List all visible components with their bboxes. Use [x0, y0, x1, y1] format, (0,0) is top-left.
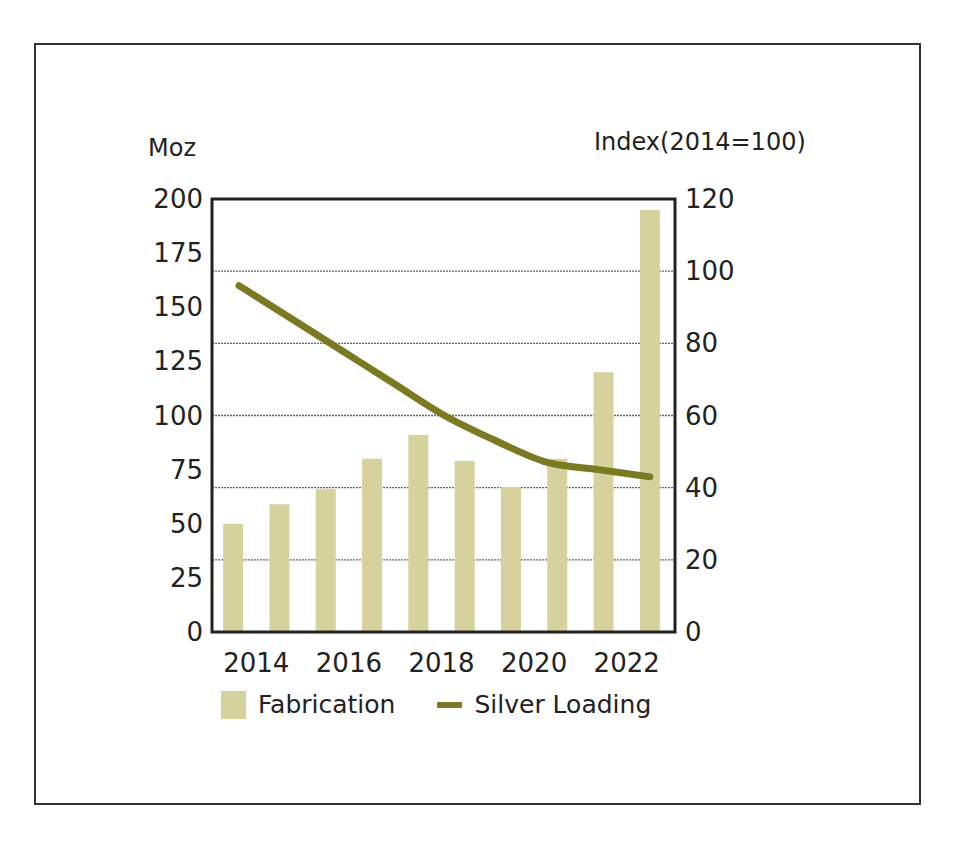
bar-2022 — [594, 372, 614, 632]
right-tick-label: 120 — [685, 184, 735, 214]
bar-2014 — [223, 524, 243, 632]
legend-label-fabrication: Fabrication — [258, 690, 395, 719]
left-tick-label: 75 — [170, 455, 203, 485]
left-axis-ticks: 0255075100125150175200 — [153, 184, 203, 647]
left-tick-label: 0 — [186, 617, 203, 647]
bar-2018 — [408, 435, 428, 632]
left-tick-label: 175 — [153, 238, 203, 268]
right-tick-label: 20 — [685, 545, 718, 575]
right-tick-label: 0 — [685, 617, 702, 647]
right-tick-label: 100 — [685, 256, 735, 286]
left-tick-label: 50 — [170, 509, 203, 539]
line-swatch-icon — [437, 702, 462, 708]
bar-2019 — [455, 461, 475, 632]
left-tick-label: 200 — [153, 184, 203, 214]
bar-2020 — [501, 487, 521, 632]
x-tick-label: 2016 — [316, 648, 382, 678]
left-tick-label: 100 — [153, 401, 203, 431]
silver-loading-line — [239, 286, 650, 477]
bar-2016 — [316, 489, 336, 632]
right-tick-label: 80 — [685, 328, 718, 358]
x-tick-label: 2022 — [594, 648, 660, 678]
legend-item-fabrication: Fabrication — [221, 690, 395, 719]
x-tick-label: 2020 — [501, 648, 567, 678]
bar-swatch-icon — [221, 691, 246, 719]
bar-2021 — [547, 459, 567, 632]
chart-plot: 0255075100125150175200 020406080100120 2… — [0, 0, 957, 848]
left-tick-label: 150 — [153, 292, 203, 322]
fabrication-bars — [223, 210, 660, 632]
bar-2023 — [640, 210, 660, 632]
right-tick-label: 40 — [685, 473, 718, 503]
legend-item-silver-loading: Silver Loading — [437, 690, 651, 719]
left-tick-label: 25 — [170, 563, 203, 593]
left-tick-label: 125 — [153, 346, 203, 376]
x-axis-ticks: 20142016201820202022 — [223, 648, 660, 678]
x-tick-label: 2018 — [408, 648, 474, 678]
bar-2015 — [269, 504, 289, 632]
bar-2017 — [362, 459, 382, 632]
right-axis-ticks: 020406080100120 — [685, 184, 735, 647]
x-tick-label: 2014 — [223, 648, 289, 678]
legend-label-silver-loading: Silver Loading — [474, 690, 651, 719]
legend: Fabrication Silver Loading — [221, 690, 651, 719]
right-tick-label: 60 — [685, 401, 718, 431]
